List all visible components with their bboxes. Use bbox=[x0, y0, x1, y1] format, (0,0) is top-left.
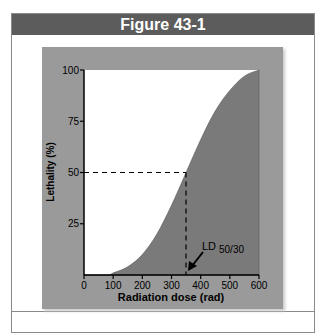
x-tick-label: 600 bbox=[251, 280, 268, 291]
y-tick-label: 100 bbox=[62, 65, 79, 76]
x-tick-label: 500 bbox=[221, 280, 238, 291]
ld-sub-label: 50/30 bbox=[219, 244, 244, 255]
x-tick-label: 300 bbox=[163, 280, 180, 291]
x-axis-label: Radiation dose (rad) bbox=[118, 291, 225, 303]
x-tick-label: 200 bbox=[134, 280, 151, 291]
x-tick-label: 400 bbox=[192, 280, 209, 291]
y-axis-label: Lethality (%) bbox=[45, 142, 56, 201]
ld-label: LD bbox=[202, 240, 216, 252]
x-tick-label: 100 bbox=[105, 280, 122, 291]
y-tick-label: 25 bbox=[68, 218, 80, 229]
x-tick-label: 0 bbox=[81, 280, 87, 291]
y-tick-label: 75 bbox=[68, 116, 80, 127]
y-tick-label: 50 bbox=[68, 167, 80, 178]
